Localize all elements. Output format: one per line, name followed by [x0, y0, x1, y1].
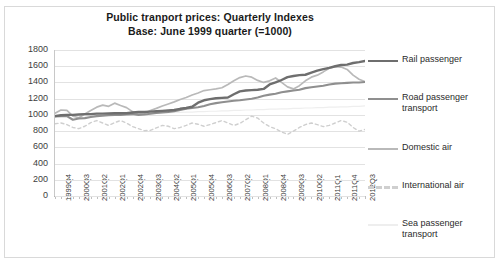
y-axis-label: 0 [4, 190, 48, 200]
chart-container: Public tranport prices: Quarterly Indexe… [0, 0, 500, 265]
legend-swatch-icon [368, 221, 398, 230]
legend-item[interactable]: Rail passenger [368, 54, 462, 66]
legend-label: Rail passenger [402, 54, 462, 65]
legend-item[interactable]: International air [368, 180, 464, 192]
legend-label: Sea passenger transport [402, 218, 496, 240]
gridline [55, 196, 365, 197]
legend-label: Road passenger transport [402, 92, 496, 114]
legend-swatch-icon [368, 183, 398, 192]
y-axis-label: 600 [4, 141, 48, 151]
y-axis-label: 1600 [4, 60, 48, 70]
chart-subtitle: Base: June 1999 quarter (=1000) [0, 24, 420, 38]
y-axis-label: 400 [4, 158, 48, 168]
legend-item[interactable]: Road passenger transport [368, 92, 496, 114]
page-title: Public tranport prices: Quarterly Indexe… [0, 10, 420, 24]
y-axis-label: 200 [4, 174, 48, 184]
legend-swatch-icon [368, 145, 398, 154]
chart-title-block: Public tranport prices: Quarterly Indexe… [0, 10, 420, 38]
y-axis-label: 1400 [4, 76, 48, 86]
y-axis-label: 1800 [4, 44, 48, 54]
series-line [55, 116, 365, 134]
y-axis-label: 800 [4, 125, 48, 135]
series-line [55, 67, 365, 118]
legend-swatch-icon [368, 95, 398, 104]
legend-label: Domestic air [402, 142, 452, 153]
legend-swatch-icon [368, 57, 398, 66]
y-axis-label: 1000 [4, 109, 48, 119]
plot-area [55, 50, 365, 196]
series-lines [55, 50, 365, 196]
x-axis-tick [365, 196, 366, 199]
y-axis-label: 1200 [4, 93, 48, 103]
legend-item[interactable]: Domestic air [368, 142, 452, 154]
legend-item[interactable]: Sea passenger transport [368, 218, 496, 240]
legend-label: International air [402, 180, 464, 191]
